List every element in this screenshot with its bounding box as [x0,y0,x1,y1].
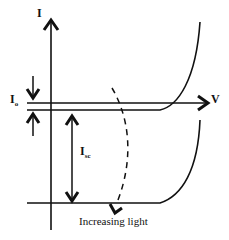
increasing-light-arrow [110,88,128,213]
io-arrows [27,76,39,136]
isc-arrow [66,116,78,201]
io-label-sub: o [15,100,19,108]
dark-iv-curve [27,22,200,110]
io-label: Io [10,92,18,107]
solar-cell-iv-diagram: I V Io Isc Increasing light [0,0,229,240]
io-label-main: I [10,92,15,106]
current-axis-label: I [37,6,42,21]
isc-label-main: I [80,144,85,158]
voltage-axis-label: V [211,92,220,107]
increasing-light-label: Increasing light [79,215,148,227]
isc-label: Isc [80,144,91,159]
diagram-graphics [0,0,229,240]
isc-label-sub: sc [85,152,91,160]
illuminated-iv-curve [27,120,200,203]
current-axis [44,20,58,230]
